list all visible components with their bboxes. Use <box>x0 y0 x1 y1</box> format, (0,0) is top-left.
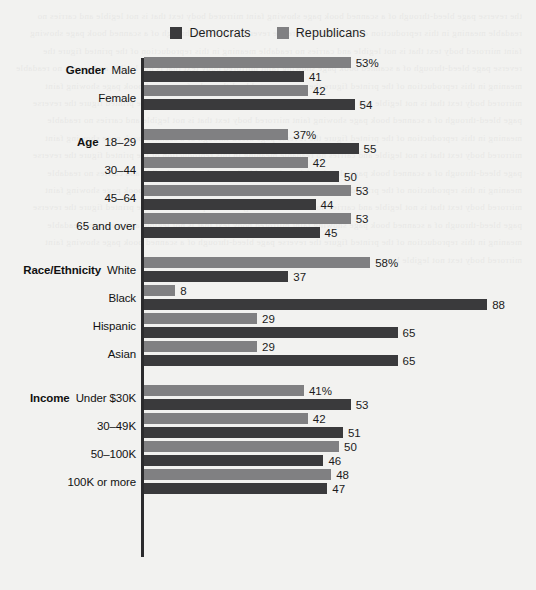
category-label-block: Asian <box>108 340 136 368</box>
category-name-label: 30–49K <box>97 420 136 432</box>
bar-fill <box>144 355 398 366</box>
bar-value-label: 65 <box>403 355 416 367</box>
legend-label: Republicans <box>296 26 366 40</box>
bar-democrats: 55 <box>144 143 359 154</box>
bar-value-label: 42 <box>313 85 326 97</box>
bar-democrats: 65 <box>144 327 398 338</box>
category-name-label: 100K or more <box>68 476 136 488</box>
category-label-block: Race/EthnicityWhite <box>23 256 136 284</box>
legend-item-democrats: Democrats <box>170 26 250 40</box>
bar-fill <box>144 271 288 282</box>
legend-label: Democrats <box>189 26 250 40</box>
bar-fill <box>144 299 487 310</box>
category-name-label: Under $30K <box>76 392 136 404</box>
bar-group-age: Age18–2937%5530–44425045–64534465 and ov… <box>0 128 536 240</box>
category-label-block: 100K or more <box>68 468 136 496</box>
bar-group-income: IncomeUnder $30K41%5330–49K425150–100K50… <box>0 384 536 496</box>
category-label-block: Age18–29 <box>77 128 136 156</box>
bar-value-label: 29 <box>262 341 275 353</box>
bar-republicans: 29 <box>144 341 257 352</box>
bar-value-label: 50 <box>344 441 357 453</box>
bar-group-race-ethnicity: Race/EthnicityWhite58%37Black888Hispanic… <box>0 256 536 368</box>
bar-republicans: 42 <box>144 85 308 96</box>
chart-legend: DemocratsRepublicans <box>0 26 536 40</box>
bar-fill <box>144 71 304 82</box>
bar-value-label: 88 <box>492 299 505 311</box>
bar-fill <box>144 199 316 210</box>
bar-democrats: 44 <box>144 199 316 210</box>
bar-republicans: 50 <box>144 441 339 452</box>
bar-republicans: 48 <box>144 469 331 480</box>
bar-value-label: 42 <box>313 157 326 169</box>
category-row: IncomeUnder $30K41%53 <box>0 384 536 412</box>
bar-republicans: 53% <box>144 57 351 68</box>
bar-democrats: 46 <box>144 455 323 466</box>
bar-republicans: 29 <box>144 313 257 324</box>
bar-fill <box>144 227 320 238</box>
bar-value-label: 51 <box>348 427 361 439</box>
bar-value-label: 50 <box>344 171 357 183</box>
bar-value-label: 41% <box>309 385 332 397</box>
group-name-label: Age <box>77 136 98 148</box>
category-row: 45–645344 <box>0 184 536 212</box>
bar-group-gender: GenderMale53%41Female4254 <box>0 56 536 112</box>
bar-fill <box>144 157 308 168</box>
bar-democrats: 88 <box>144 299 487 310</box>
bar-fill <box>144 399 351 410</box>
category-label-block: 65 and over <box>76 212 136 240</box>
category-label-block: Hispanic <box>93 312 136 340</box>
bar-value-label: 37% <box>293 129 316 141</box>
bar-value-label: 55 <box>364 143 377 155</box>
group-name-label: Race/Ethnicity <box>23 264 101 276</box>
category-name-label: Female <box>98 92 136 104</box>
category-label-block: 45–64 <box>105 184 136 212</box>
plot-area: GenderMale53%41Female4254Age18–2937%5530… <box>0 56 536 566</box>
bar-value-label: 54 <box>360 99 373 111</box>
bar-fill <box>144 285 175 296</box>
group-name-label: Gender <box>66 64 106 76</box>
category-row: Race/EthnicityWhite58%37 <box>0 256 536 284</box>
bar-value-label: 46 <box>328 455 341 467</box>
bar-fill <box>144 427 343 438</box>
bar-democrats: 50 <box>144 171 339 182</box>
bar-value-label: 53 <box>356 213 369 225</box>
bar-fill <box>144 483 327 494</box>
bar-democrats: 51 <box>144 427 343 438</box>
bar-republicans: 58% <box>144 257 370 268</box>
bar-democrats: 41 <box>144 71 304 82</box>
bar-value-label: 42 <box>313 413 326 425</box>
bar-fill <box>144 455 323 466</box>
bar-value-label: 48 <box>336 469 349 481</box>
bar-fill <box>144 413 308 424</box>
bar-value-label: 65 <box>403 327 416 339</box>
category-row: Age18–2937%55 <box>0 128 536 156</box>
bar-value-label: 58% <box>375 257 398 269</box>
category-row: 65 and over5345 <box>0 212 536 240</box>
category-row: 30–49K4251 <box>0 412 536 440</box>
bar-democrats: 37 <box>144 271 288 282</box>
bar-value-label: 53% <box>356 57 379 69</box>
bar-value-label: 45 <box>325 227 338 239</box>
bar-fill <box>144 85 308 96</box>
category-label-block: 30–49K <box>97 412 136 440</box>
category-name-label: Black <box>108 292 136 304</box>
bar-republicans: 37% <box>144 129 288 140</box>
bar-value-label: 29 <box>262 313 275 325</box>
bar-democrats: 45 <box>144 227 320 238</box>
category-name-label: 30–44 <box>105 164 136 176</box>
category-row: Female4254 <box>0 84 536 112</box>
bar-fill <box>144 213 351 224</box>
category-name-label: 45–64 <box>105 192 136 204</box>
legend-swatch-icon <box>170 27 182 39</box>
bar-value-label: 53 <box>356 185 369 197</box>
category-row: 30–444250 <box>0 156 536 184</box>
bar-value-label: 47 <box>332 483 345 495</box>
bar-fill <box>144 99 355 110</box>
bar-fill <box>144 129 288 140</box>
bar-fill <box>144 143 359 154</box>
bar-value-label: 53 <box>356 399 369 411</box>
bar-republicans: 53 <box>144 213 351 224</box>
category-row: 50–100K5046 <box>0 440 536 468</box>
category-label-block: Female <box>98 84 136 112</box>
group-name-label: Income <box>30 392 70 404</box>
